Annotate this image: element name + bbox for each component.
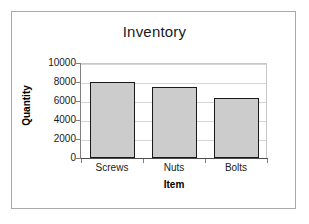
x-axis-tick-mark [143,159,144,163]
y-axis-tick-label: 0 [16,153,76,163]
x-axis-line [81,158,268,159]
y-axis-tick-mark [76,63,80,64]
y-axis-tick-mark [76,120,80,121]
bar-nuts [152,87,197,158]
x-axis-tick-mark [205,159,206,163]
y-axis-tick-mark [76,139,80,140]
gridline [81,64,266,65]
x-axis-tick-mark [81,159,82,163]
y-axis-tick-mark [76,158,80,159]
plot-area [81,63,267,158]
x-axis-tick-label: Nuts [143,162,205,174]
bar-bolts [214,98,259,158]
bar-screws [90,82,135,158]
x-axis-tick-label: Bolts [205,162,267,174]
x-axis-tick-label: Screws [81,162,143,174]
x-axis-tick-labels: ScrewsNutsBolts [81,162,267,178]
chart-frame: Inventory 1000080006000400020000 ScrewsN… [11,11,296,209]
y-axis-title: Quantity [21,61,32,151]
y-axis-tick-mark [76,101,80,102]
y-axis-tick-mark [76,82,80,83]
x-axis-tick-mark [267,159,268,163]
x-axis-title: Item [81,179,267,190]
